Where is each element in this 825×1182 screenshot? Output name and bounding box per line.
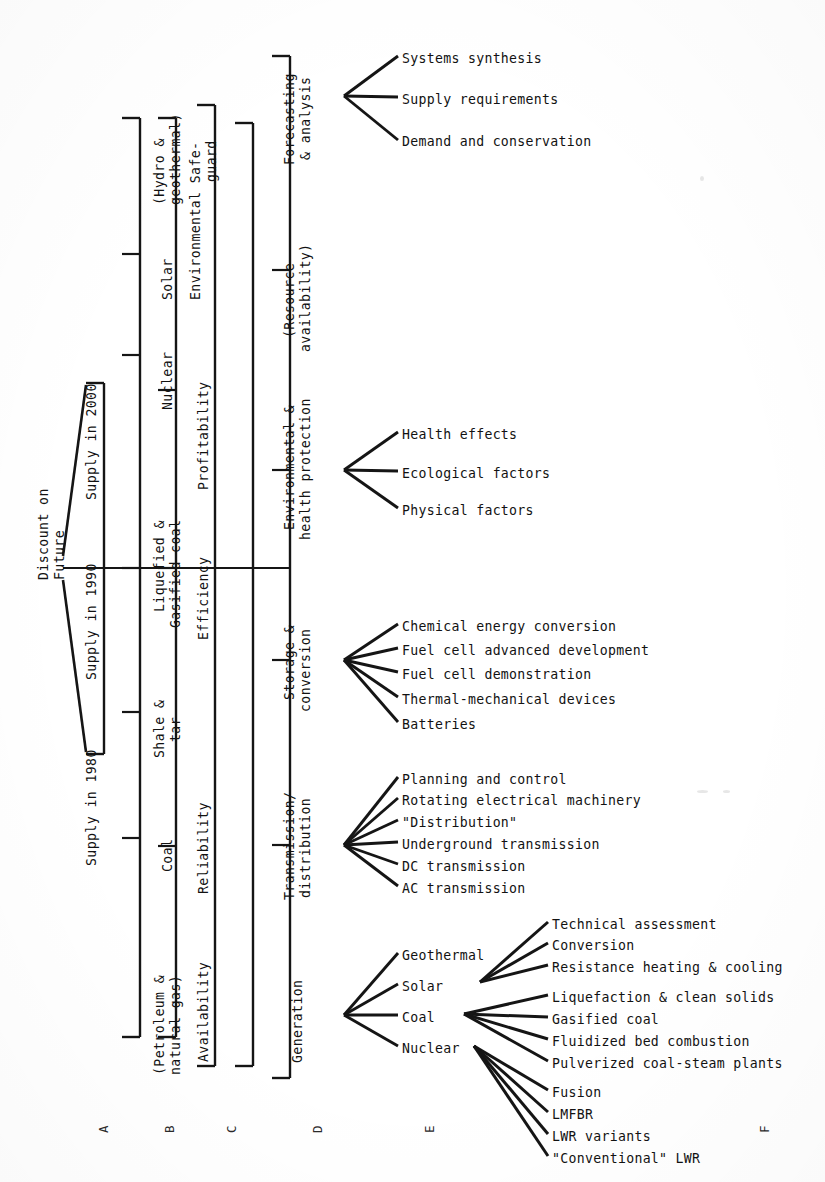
column-d-item-forecasting-l2: & analysis [298,77,314,160]
column-d-ticks [272,270,290,845]
column-d-item-storage-l1: Storage & [282,625,298,700]
column-b-item-solar: Solar [160,258,176,300]
leaf-fuel-cell-advanced: Fuel cell advanced development [402,643,649,659]
column-b-item-liqgas-l1: Liquefied & [152,520,168,612]
leaf-supply-requirements: Supply requirements [402,92,559,108]
column-d-item-transmission-l2: distribution [298,798,314,898]
column-b-item-shale-l2: tar [168,717,184,742]
diagram-page: Discount on Future Supply in 2000 Supply… [0,0,825,1182]
leaf-ac-transmission: AC transmission [402,881,526,897]
leaf-resistance-heating: Resistance heating & cooling [552,960,783,976]
column-b-item-coal: Coal [160,839,176,872]
column-c-item-safeguard-l2: guard [204,140,220,182]
leaf-nuclear: Nuclear [402,1041,460,1057]
column-key-a: A [96,1125,112,1133]
fan-transmission-distribution [344,777,398,886]
column-c-item-availability: Availability [196,962,212,1062]
leaf-geothermal: Geothermal [402,948,484,964]
leaf-fusion: Fusion [552,1085,601,1101]
column-a-child-1990: Supply in 1990 [84,563,100,680]
leaf-distribution: "Distribution" [402,815,517,831]
column-d-item-storage-l2: conversion [298,629,314,712]
fan-generation [344,953,398,1046]
column-d-item-resource-l2: availability) [298,244,314,352]
leaf-batteries: Batteries [402,717,476,733]
leaf-ecological-factors: Ecological factors [402,466,550,482]
scan-speck [723,790,730,793]
leaf-pulverized-coal-steam: Pulverized coal-steam plants [552,1056,783,1072]
leaf-chemical-energy-conversion: Chemical energy conversion [402,619,616,635]
fan-environmental-health [344,432,398,508]
column-d-bracket [272,56,290,1078]
leaf-underground-transmission: Underground transmission [402,837,600,853]
leaf-technical-assessment: Technical assessment [552,917,717,933]
column-a-root-line1: Discount on [36,488,52,580]
column-d-item-envhealth-l2: health protection [298,398,314,540]
leaf-planning-and-control: Planning and control [402,772,567,788]
column-b-item-liqgas-l2: Gasified coal [168,520,184,628]
leaf-systems-synthesis: Systems synthesis [402,51,542,67]
leaf-lmfbr: LMFBR [552,1107,593,1123]
column-b-item-shale-l1: Shale & [152,700,168,758]
column-d-item-generation: Generation [290,980,306,1063]
leaf-fuel-cell-demonstration: Fuel cell demonstration [402,667,592,683]
leaf-physical-factors: Physical factors [402,503,534,519]
column-c-item-reliability: Reliability [196,802,212,894]
column-d-item-transmission-l1: Transmission/ [282,792,298,900]
leaf-health-effects: Health effects [402,427,517,443]
column-key-d: D [310,1125,326,1133]
column-a-child-2000: Supply in 2000 [84,383,100,500]
leaf-gasified-coal: Gasified coal [552,1012,659,1028]
column-d-item-envhealth-l1: Environmental & [282,405,298,530]
column-key-b: B [162,1125,178,1133]
column-d-item-forecasting-l1: Forecasting [282,73,298,165]
column-b-bracket [122,118,140,1037]
leaf-fluidized-bed-combustion: Fluidized bed combustion [552,1034,750,1050]
column-c-item-efficiency: Efficiency [196,557,212,640]
leaf-thermal-mechanical: Thermal-mechanical devices [402,692,616,708]
leaf-lwr-variants: LWR variants [552,1129,651,1145]
leaf-conversion: Conversion [552,938,634,954]
column-key-e: E [422,1125,438,1133]
column-b-item-hydro-l1: (Hydro & [152,138,168,205]
leaf-coal: Coal [402,1010,435,1026]
column-b-item-petrol-l1: (Petroleum & [152,975,168,1075]
column-b-item-hydro-l2: geothermal) [168,113,184,205]
leaf-liquefaction-clean-solids: Liquefaction & clean solids [552,990,774,1006]
leaf-conventional-lwr: "Conventional" LWR [552,1151,700,1167]
column-c-item-safeguard-l1: Environmental Safe- [188,142,204,300]
scan-speck [700,176,704,181]
leaf-demand-conservation: Demand and conservation [402,134,592,150]
leaf-dc-transmission: DC transmission [402,859,526,875]
scan-speck [697,790,708,793]
leaf-solar: Solar [402,979,443,995]
column-key-c: C [224,1125,240,1133]
fan-forecasting [344,56,398,140]
column-a-root-line2: Future [52,530,68,580]
leaf-rotating-electrical: Rotating electrical machinery [402,793,641,809]
column-c-item-profitability: Profitability [196,382,212,490]
fan-storage-conversion [344,624,398,722]
fan-solar-sub [480,922,548,982]
column-d-item-resource-l1: (Resource [282,263,298,338]
column-a-child-1980: Supply in 1980 [84,749,100,866]
fan-coal-sub [464,995,548,1061]
column-d-inner-bracket [235,123,253,1066]
column-key-f: F [757,1125,773,1133]
column-b-ticks [122,254,140,838]
column-b-item-nuclear: Nuclear [160,352,176,410]
column-b-item-petrol-l2: natural gas) [168,975,184,1075]
fan-nuclear-sub [474,1046,548,1156]
